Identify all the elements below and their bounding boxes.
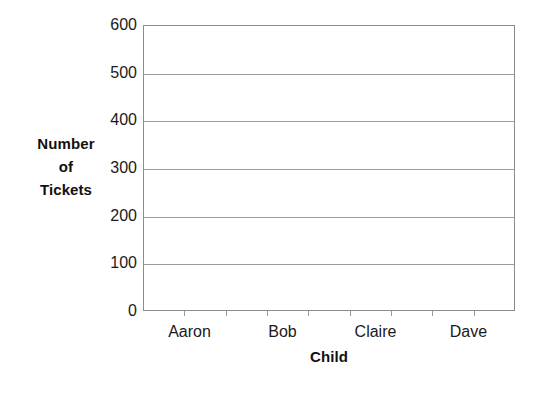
x-tick-5 (350, 311, 351, 316)
y-axis-tick-labels: 6005004003002001000 (71, 25, 137, 311)
x-tick-1 (184, 311, 185, 316)
y-tick-label-300: 300 (75, 160, 137, 176)
y-tick-label-200: 200 (75, 208, 137, 224)
y-tick-label-500: 500 (75, 65, 137, 81)
x-axis-ticks (143, 311, 515, 319)
x-tick-4 (308, 311, 309, 316)
x-tick-2 (226, 311, 227, 316)
x-tick-7 (432, 311, 433, 316)
x-tick-8 (474, 311, 475, 316)
y-tick-label-100: 100 (75, 255, 137, 271)
bar-chart: Number of Tickets 6005004003002001000 Aa… (0, 0, 540, 394)
bars-layer (144, 26, 514, 310)
x-tick-3 (267, 311, 268, 316)
x-tick-6 (391, 311, 392, 316)
x-axis-tick-labels: AaronBobClaireDave (143, 322, 515, 344)
x-axis-title: Child (143, 347, 515, 367)
y-tick-label-0: 0 (75, 303, 137, 319)
y-tick-label-600: 600 (75, 17, 137, 33)
plot-area (143, 25, 515, 311)
y-tick-label-400: 400 (75, 112, 137, 128)
x-tick-label-dave: Dave (414, 322, 524, 342)
